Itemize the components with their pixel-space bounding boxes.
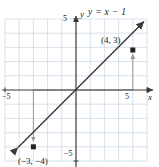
point-label-4-3: (4, 3) — [101, 36, 121, 45]
x-axis-label: x — [148, 93, 152, 102]
point-label-neg3-neg4: (−3, −4) — [18, 157, 48, 166]
y-tick-label-negative-5: −5 — [64, 150, 73, 158]
function-line — [18, 22, 144, 148]
x-tick-label-negative-5: −5 — [2, 93, 11, 101]
y-axis-label: y — [80, 10, 84, 19]
axes — [2, 16, 153, 167]
point-marker-4-3 — [130, 48, 135, 53]
graph-canvas — [0, 0, 159, 167]
helper-projection-lines — [33, 54, 132, 142]
coordinate-plane-figure: y = x − 1 y x 5 5 −5 −5 (4, 3) (−3, −4) — [0, 0, 159, 167]
point-marker-neg3-neg4 — [31, 144, 36, 149]
plotted-points — [31, 48, 135, 150]
y-tick-label-positive-5: 5 — [63, 15, 67, 23]
equation-label: y = x − 1 — [88, 8, 126, 18]
x-tick-label-positive-5: 5 — [125, 93, 129, 101]
